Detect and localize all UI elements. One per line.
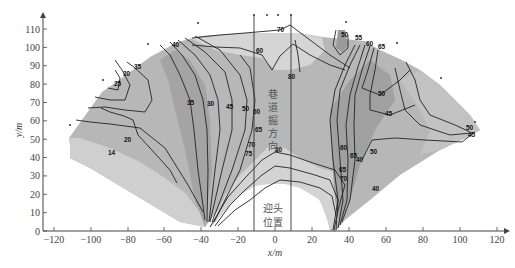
contour-label: 70 [277, 26, 285, 33]
contour-label: 50 [341, 31, 349, 38]
contour-label: 40 [356, 156, 364, 163]
direction-char: 向 [268, 140, 278, 152]
x-tick-label: 20 [307, 234, 317, 245]
contour-label: 60 [340, 144, 348, 151]
face-position-label-line1: 迎头 [263, 203, 283, 214]
contour-label: 70 [248, 141, 256, 148]
contour-label: 40 [172, 41, 180, 48]
x-tick-label: 100 [453, 234, 468, 245]
contour-label: 60 [366, 40, 374, 47]
x-tick-label: 80 [418, 234, 428, 245]
contour-label: 80 [288, 73, 296, 80]
contour-chart: 14 20 25 30 35 40 35 30 45 50 60 65 70 7… [0, 0, 515, 268]
contour-label: 65 [378, 43, 386, 50]
x-tick-label: 40 [344, 234, 354, 245]
x-tick-label: −100 [81, 234, 102, 245]
y-tick-label: 30 [30, 170, 40, 181]
sample-point [102, 79, 104, 81]
y-tick-label: 90 [30, 60, 40, 71]
direction-char: 道 [268, 101, 278, 113]
sample-point [440, 77, 442, 79]
y-tick-label: 50 [30, 134, 40, 145]
contour-label: 25 [114, 80, 122, 87]
x-tick-label: −60 [156, 234, 172, 245]
y-tick-label: 70 [30, 97, 40, 108]
sample-point [147, 43, 149, 45]
y-tick-label: 40 [30, 152, 40, 163]
contour-label: 50 [466, 124, 474, 131]
y-axis-arrow-icon [40, 12, 46, 18]
y-tick-label: 0 [35, 226, 40, 237]
sample-point [277, 14, 279, 16]
contour-label: 14 [108, 149, 116, 156]
x-tick-label: 120 [490, 234, 505, 245]
y-tick-label: 20 [30, 189, 40, 200]
sample-point [69, 124, 71, 126]
x-tick-label: −80 [120, 234, 136, 245]
contour-label: 35 [134, 63, 142, 70]
sample-point [396, 42, 398, 44]
x-axis-title: x/m [267, 247, 282, 258]
y-tick-label: 80 [30, 79, 40, 90]
x-axis-arrow-icon [504, 228, 510, 234]
y-tick-labels: 0 10 20 30 40 50 60 70 80 90 100 110 [25, 24, 40, 237]
y-tick-label: 100 [25, 42, 40, 53]
contour-label: 30 [207, 100, 215, 107]
contour-label: 75 [245, 150, 253, 157]
x-tick-label: −20 [230, 234, 246, 245]
sample-point [345, 21, 347, 23]
contour-label: 45 [226, 103, 234, 110]
face-position-label-line2: 位置 [263, 216, 283, 228]
y-tick-label: 60 [30, 115, 40, 126]
x-tick-label: 60 [381, 234, 391, 245]
contour-label: 50 [370, 148, 378, 155]
x-tick-labels: −120 −100 −80 −60 −40 −20 0 20 40 60 80 … [44, 234, 505, 245]
contour-label: 30 [123, 70, 131, 77]
y-axis-title: y/m [13, 123, 24, 138]
x-tick-label: 0 [273, 234, 278, 245]
contour-label: 40 [372, 185, 380, 192]
y-ticks [43, 29, 47, 231]
contour-label: 55 [355, 34, 363, 41]
contour-label: 65 [339, 166, 347, 173]
contour-label: 70 [340, 175, 348, 182]
direction-char: 巷 [268, 89, 278, 100]
y-tick-label: 10 [30, 207, 40, 218]
contour-label: 50 [242, 105, 250, 112]
sample-point [474, 121, 476, 123]
direction-char: 方 [268, 127, 278, 139]
x-tick-label: −120 [44, 234, 65, 245]
contour-label: 65 [255, 126, 263, 133]
contour-label: 20 [124, 136, 132, 143]
sample-point [197, 22, 199, 24]
contour-label: 45 [385, 110, 393, 117]
sample-point [266, 14, 268, 16]
contour-label: 60 [256, 47, 264, 54]
contour-label: 50 [378, 90, 386, 97]
contour-label: 45 [468, 131, 476, 138]
direction-char: 掘 [268, 114, 278, 126]
y-tick-label: 110 [25, 24, 40, 35]
x-tick-label: −40 [193, 234, 209, 245]
contour-label: 35 [187, 99, 195, 106]
